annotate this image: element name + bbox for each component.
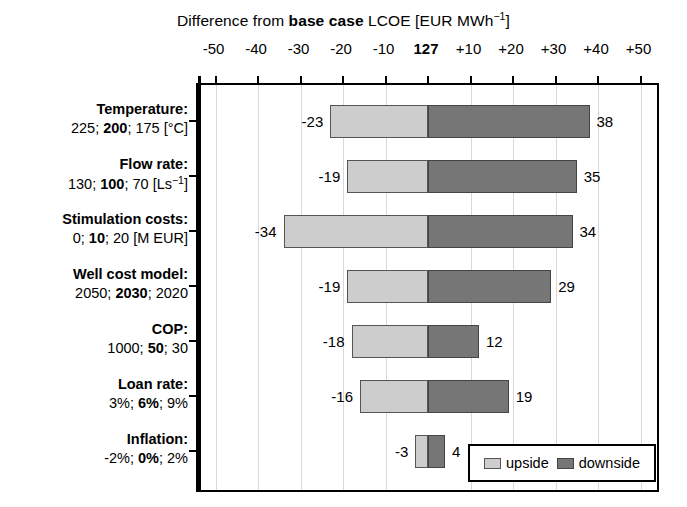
gridline <box>216 85 217 490</box>
category-parameter-values: 130; 100; 70 [Ls−1] <box>0 173 188 193</box>
legend-entry: upside <box>484 455 549 471</box>
category-name: COP: <box>0 320 188 339</box>
x-tick-label: -40 <box>245 40 267 57</box>
legend-label: upside <box>506 455 549 471</box>
bar-value-upside: -19 <box>319 279 341 294</box>
bar-upside <box>360 380 428 413</box>
category-parameter-values: -2%; 0%; 2% <box>0 449 188 468</box>
bar-downside <box>428 105 590 138</box>
category-name: Inflation: <box>0 430 188 449</box>
bar-value-downside: 12 <box>486 334 503 349</box>
category-parameter-values: 2050; 2030; 2020 <box>0 284 188 303</box>
legend: upsidedownside <box>468 444 656 482</box>
bar-value-downside: 35 <box>584 169 601 184</box>
x-tick-label: -10 <box>373 40 395 57</box>
bar-value-downside: 38 <box>597 114 614 129</box>
gridline <box>641 85 642 490</box>
y-tick-mark <box>189 340 198 342</box>
gridline <box>343 85 344 490</box>
y-axis-category-label: COP:1000; 50; 30 <box>0 320 188 357</box>
bar-value-upside: -3 <box>395 444 408 459</box>
bar-downside <box>428 215 573 248</box>
y-tick-mark <box>189 230 198 232</box>
y-axis-category-label: Temperature:225; 200; 175 [°C] <box>0 100 188 137</box>
x-tick-mark <box>385 76 387 85</box>
x-tick-label: -30 <box>288 40 310 57</box>
bar-upside <box>347 270 428 303</box>
legend-label: downside <box>579 455 640 471</box>
bar-value-upside: -16 <box>331 389 353 404</box>
y-tick-mark <box>189 450 198 452</box>
legend-entry: downside <box>557 455 640 471</box>
bar-value-upside: -19 <box>319 169 341 184</box>
x-tick-mark <box>215 76 217 85</box>
x-tick-mark <box>427 76 429 85</box>
chart-title: Difference from base case LCOE [EUR MWh−… <box>0 10 687 30</box>
y-tick-mark <box>189 120 198 122</box>
bar-downside <box>428 270 551 303</box>
gridline <box>301 85 302 490</box>
bar-downside <box>428 435 445 468</box>
bar-value-downside: 4 <box>452 444 460 459</box>
x-tick-label: +50 <box>626 40 651 57</box>
base-case-reference-line <box>198 76 201 490</box>
category-name: Stimulation costs: <box>0 210 188 229</box>
y-axis-category-label: Loan rate:3%; 6%; 9% <box>0 375 188 412</box>
bar-downside <box>428 380 509 413</box>
x-tick-label-base-case: 127 <box>413 40 438 57</box>
x-tick-mark <box>257 76 259 85</box>
x-tick-label: +20 <box>498 40 523 57</box>
y-tick-mark <box>189 285 198 287</box>
tornado-chart-figure: Difference from base case LCOE [EUR MWh−… <box>0 0 687 507</box>
bar-upside <box>330 105 428 138</box>
x-tick-mark <box>470 76 472 85</box>
bar-upside <box>415 435 428 468</box>
chart-title-emphasis: base case <box>289 12 364 29</box>
category-name: Flow rate: <box>0 155 188 174</box>
gridline <box>258 85 259 490</box>
y-axis-category-label: Stimulation costs:0; 10; 20 [M EUR] <box>0 210 188 247</box>
gridline <box>556 85 557 490</box>
category-parameter-values: 225; 200; 175 [°C] <box>0 119 188 138</box>
x-tick-mark <box>300 76 302 85</box>
y-axis-category-label: Inflation:-2%; 0%; 2% <box>0 430 188 467</box>
category-name: Loan rate: <box>0 375 188 394</box>
x-tick-label: -20 <box>330 40 352 57</box>
bar-upside <box>352 325 429 358</box>
bar-value-upside: -18 <box>323 334 345 349</box>
bar-value-downside: 29 <box>558 279 575 294</box>
bar-value-upside: -34 <box>255 224 277 239</box>
x-tick-label: +40 <box>583 40 608 57</box>
category-name: Temperature: <box>0 100 188 119</box>
bar-value-downside: 19 <box>516 389 533 404</box>
x-tick-mark <box>597 76 599 85</box>
x-tick-mark <box>512 76 514 85</box>
x-tick-mark <box>342 76 344 85</box>
x-tick-mark <box>555 76 557 85</box>
bar-value-downside: 34 <box>580 224 597 239</box>
x-axis-tick-labels: -50-40-30-20-10127+10+20+30+40+50 <box>0 40 687 62</box>
gridline <box>598 85 599 490</box>
bar-upside <box>284 215 429 248</box>
bar-upside <box>347 160 428 193</box>
y-axis-category-label: Flow rate:130; 100; 70 [Ls−1] <box>0 155 188 194</box>
y-axis-category-labels: Temperature:225; 200; 175 [°C]Flow rate:… <box>0 83 188 492</box>
category-parameter-values: 1000; 50; 30 <box>0 339 188 358</box>
legend-swatch-upside <box>484 458 501 469</box>
bar-value-upside: -23 <box>302 114 324 129</box>
x-tick-label: +10 <box>456 40 481 57</box>
legend-swatch-downside <box>557 458 574 469</box>
bar-downside <box>428 160 577 193</box>
x-tick-label: +30 <box>541 40 566 57</box>
x-tick-label: -50 <box>203 40 225 57</box>
y-axis-category-label: Well cost model:2050; 2030; 2020 <box>0 265 188 302</box>
y-tick-mark <box>189 395 198 397</box>
y-tick-mark <box>189 175 198 177</box>
category-parameter-values: 0; 10; 20 [M EUR] <box>0 229 188 248</box>
plot-area: -2338-1935-3434-1929-1812-1619-34 <box>196 83 659 492</box>
category-parameter-values: 3%; 6%; 9% <box>0 394 188 413</box>
bar-downside <box>428 325 479 358</box>
x-tick-mark <box>640 76 642 85</box>
category-name: Well cost model: <box>0 265 188 284</box>
